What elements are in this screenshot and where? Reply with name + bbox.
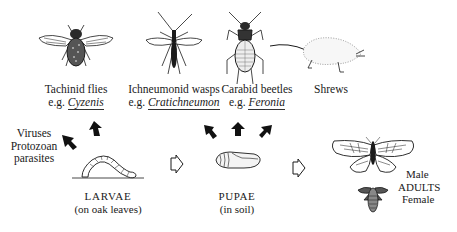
pupae-habitat: (in soil) [212,203,262,216]
adults-name: ADULTS [398,181,454,194]
shrews-label: Shrews [306,83,356,96]
tachinid-genus: Cyzenis [68,96,104,110]
carabid-genus: Feronia [248,96,285,110]
ichneumonid-name: Ichneumonid wasps [122,83,226,96]
ichneumonid-example: e.g. Cratichneumon [122,96,226,109]
attack-arrow-icon [231,122,245,137]
pathogen-line: Protozoan [6,140,62,153]
ichneumonid-wasp-icon [142,10,208,80]
development-arrow-icon [170,154,184,174]
pathogens-label: Viruses Protozoan parasites [6,127,62,165]
eg-prefix: e.g. [128,96,145,108]
eg-prefix: e.g. [229,96,246,108]
carabid-beetle-icon [225,10,265,86]
carabid-label: Carabid beetles e.g. Feronia [220,83,294,109]
attack-arrow-icon [89,121,103,137]
ichneumonid-genus: Cratichneumon [148,96,220,110]
adults-label: Male ADULTS Female [398,168,454,206]
larvae-name: LARVAE [68,190,148,203]
pathogen-line: Viruses [6,127,62,140]
eg-prefix: e.g. [48,96,65,108]
male-label: Male [398,168,454,181]
tachinid-example: e.g. Cyzenis [38,96,114,109]
attack-arrow-icon [62,135,78,151]
attack-arrow-icon [204,125,218,140]
ichneumonid-label: Ichneumonid wasps e.g. Cratichneumon [122,83,226,109]
larva-icon [70,150,146,180]
shrew-icon [268,34,368,78]
larvae-habitat: (on oak leaves) [68,203,148,216]
tachinid-fly-icon [36,22,116,72]
development-arrow-icon [292,158,306,178]
larvae-label: LARVAE (on oak leaves) [68,190,148,216]
pupae-name: PUPAE [212,190,262,203]
tachinid-name: Tachinid flies [38,83,114,96]
tachinid-label: Tachinid flies e.g. Cyzenis [38,83,114,109]
carabid-name: Carabid beetles [220,83,294,96]
pupa-icon [214,150,262,170]
female-label: Female [398,193,454,206]
carabid-example: e.g. Feronia [220,96,294,109]
attack-arrow-icon [258,125,272,140]
pupae-label: PUPAE (in soil) [212,190,262,216]
female-moth-icon [356,184,390,214]
pathogen-line: parasites [6,152,62,165]
